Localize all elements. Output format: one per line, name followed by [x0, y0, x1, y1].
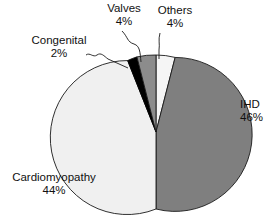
slice-label-valves-category: Valves — [98, 2, 150, 15]
slice-label-ihd: IHD 46% — [240, 98, 278, 123]
slice-label-congenital-percent: 2% — [22, 47, 96, 60]
slice-label-congenital: Congenital 2% — [22, 34, 96, 59]
slice-label-valves-percent: 4% — [98, 15, 150, 28]
slice-label-ihd-category: IHD — [240, 98, 278, 111]
pie-slice-ihd[interactable] — [156, 57, 252, 211]
slice-label-cardiomyopathy: Cardiomyopathy 44% — [2, 171, 106, 196]
slice-label-others: Others 4% — [150, 4, 200, 29]
slice-label-ihd-percent: 46% — [240, 111, 278, 124]
slice-label-valves: Valves 4% — [98, 2, 150, 27]
slice-label-others-category: Others — [150, 4, 200, 17]
pie-chart-figure: Valves 4% Others 4% Congenital 2% IHD 46… — [0, 0, 279, 221]
slice-label-congenital-category: Congenital — [22, 34, 96, 47]
slice-label-cardiomyopathy-category: Cardiomyopathy — [2, 171, 106, 184]
slice-label-cardiomyopathy-percent: 44% — [2, 184, 106, 197]
slice-label-others-percent: 4% — [150, 17, 200, 30]
